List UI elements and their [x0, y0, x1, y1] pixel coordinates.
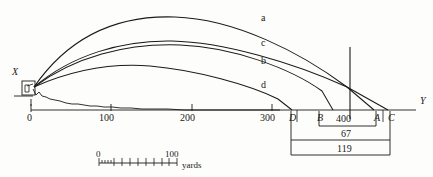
bracket-value-67: 67 [341, 129, 351, 139]
terrain-profile [33, 89, 280, 110]
axis-tick-label-200: 200 [180, 113, 195, 123]
point-label-d: D [289, 113, 296, 123]
trajectory-label-a: a [261, 13, 265, 23]
gun-emplacement [22, 81, 35, 95]
bracket-value-400: 400 [336, 114, 351, 124]
trajectory-svg [0, 0, 433, 177]
trajectory-curve-c [34, 41, 374, 110]
trajectory-label-d: d [261, 80, 266, 90]
point-label-b: B [317, 113, 323, 123]
scale-start-label: 0 [96, 150, 101, 159]
point-label-a: A [374, 113, 380, 123]
trajectory-curve-a [34, 17, 388, 110]
axis-tick-label-100: 100 [99, 113, 114, 123]
trajectory-curve-d [34, 65, 292, 110]
trajectory-curve-b [34, 45, 333, 110]
trajectory-label-b: b [261, 56, 266, 66]
artillery-trajectory-figure: X Y a c b d 0 100 200 300 D B A C 400 67… [0, 0, 433, 177]
trajectory-label-c: c [261, 38, 265, 48]
axis-tick-label-0: 0 [27, 113, 32, 123]
scale-bar-ticks [99, 158, 177, 166]
point-label-c: C [388, 113, 395, 123]
gun-barrel-icon [25, 85, 29, 92]
scale-unit-label: yards [182, 161, 202, 170]
scale-end-label: 100 [165, 150, 179, 159]
bracket-value-119: 119 [337, 144, 352, 154]
axis-end-label-y: Y [420, 96, 426, 106]
origin-label-x: X [12, 67, 18, 77]
axis-tick-label-300: 300 [260, 113, 275, 123]
